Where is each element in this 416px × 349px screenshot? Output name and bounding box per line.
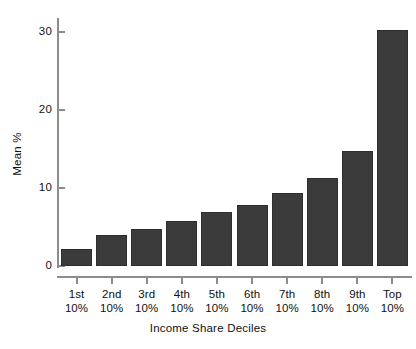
x-tick-label-line1: 2nd (94, 287, 129, 301)
x-tick-mark (391, 278, 393, 284)
bar[interactable] (342, 151, 373, 266)
bar[interactable] (307, 178, 338, 266)
x-tick-label-line1: 7th (270, 287, 305, 301)
x-tick-label-line2: 10% (199, 301, 234, 315)
x-tick-label-line1: 5th (199, 287, 234, 301)
x-tick-label-line1: 6th (235, 287, 270, 301)
x-tick-mark (181, 278, 183, 284)
bar[interactable] (61, 249, 92, 266)
bar[interactable] (201, 212, 232, 266)
bar[interactable] (377, 30, 408, 266)
x-tick-label-line2: 10% (94, 301, 129, 315)
x-tick-label: 7th10% (270, 287, 305, 315)
bar[interactable] (237, 205, 268, 266)
x-tick-label-line1: Top (375, 287, 410, 301)
x-tick-mark (286, 278, 288, 284)
x-tick-label: 2nd10% (94, 287, 129, 315)
x-tick-label: 5th10% (199, 287, 234, 315)
x-tick-mark (251, 278, 253, 284)
x-tick-label-line1: 3rd (129, 287, 164, 301)
x-tick-label-line2: 10% (375, 301, 410, 315)
x-tick-mark (216, 278, 218, 284)
x-tick-mark (146, 278, 148, 284)
x-tick-label: 9th10% (340, 287, 375, 315)
x-tick-label-line2: 10% (270, 301, 305, 315)
x-tick-label: Top10% (375, 287, 410, 315)
x-tick-label: 3rd10% (129, 287, 164, 315)
x-tick-mark (321, 278, 323, 284)
bar-chart: Mean % 0102030 1st10%2nd10%3rd10%4th10%5… (0, 0, 416, 349)
x-tick-label-line2: 10% (164, 301, 199, 315)
x-tick-label-line2: 10% (59, 301, 94, 315)
bar[interactable] (131, 229, 162, 266)
x-tick-label-line1: 9th (340, 287, 375, 301)
x-tick-label-line2: 10% (340, 301, 375, 315)
bar[interactable] (96, 235, 127, 266)
x-tick-label-line1: 8th (305, 287, 340, 301)
x-tick-mark (356, 278, 358, 284)
x-tick-label-line2: 10% (305, 301, 340, 315)
x-tick-label: 4th10% (164, 287, 199, 315)
x-axis-title: Income Share Deciles (0, 322, 416, 335)
x-tick-mark (111, 278, 113, 284)
x-tick-label-line1: 1st (59, 287, 94, 301)
x-tick-label: 8th10% (305, 287, 340, 315)
x-tick-label: 6th10% (235, 287, 270, 315)
x-tick-label-line2: 10% (235, 301, 270, 315)
x-tick-label: 1st10% (59, 287, 94, 315)
bar[interactable] (272, 193, 303, 266)
x-tick-label-line1: 4th (164, 287, 199, 301)
x-tick-label-line2: 10% (129, 301, 164, 315)
bar[interactable] (166, 221, 197, 266)
x-tick-mark (76, 278, 78, 284)
